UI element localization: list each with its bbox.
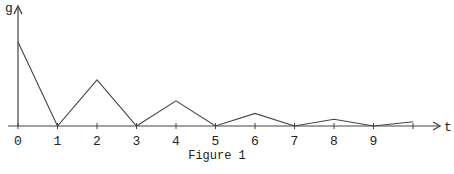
x-tick-label: 0	[14, 134, 22, 149]
x-tick-label: 9	[370, 134, 378, 149]
y-axis-label: g	[5, 1, 13, 16]
x-tick-label: 7	[291, 134, 299, 149]
chart: gt0123456789Figure 1	[0, 0, 454, 174]
x-tick-label: 1	[54, 134, 62, 149]
figure-caption: Figure 1	[188, 149, 246, 163]
x-tick-label: 6	[251, 134, 259, 149]
x-tick-label: 8	[330, 134, 338, 149]
x-tick-label: 2	[93, 134, 101, 149]
x-axis-label: t	[444, 120, 452, 135]
data-line	[18, 42, 413, 126]
x-tick-label: 5	[212, 134, 220, 149]
x-tick-label: 4	[172, 134, 180, 149]
x-tick-label: 3	[133, 134, 141, 149]
